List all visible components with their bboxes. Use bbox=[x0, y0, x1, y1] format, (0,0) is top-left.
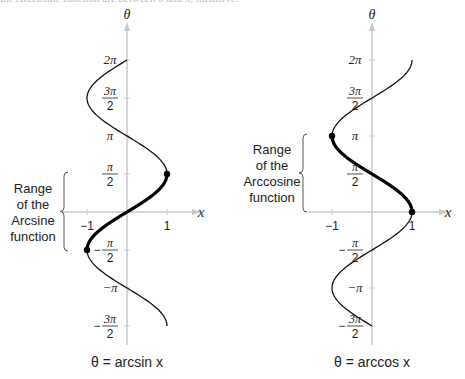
y-tick-label-denominator: 2 bbox=[352, 327, 359, 341]
minus-sign: − bbox=[338, 319, 345, 333]
range-annotation-line: function bbox=[249, 190, 295, 205]
x-tick-label: −1 bbox=[325, 219, 339, 233]
chart-arcsin: xθ−112π3π2ππ2π2−−π3π2−Rangeof theArcsine… bbox=[10, 7, 204, 370]
y-tick-label-numerator: π bbox=[107, 160, 114, 174]
endpoint-dot bbox=[84, 247, 90, 253]
y-tick-label-numerator: 3π bbox=[103, 312, 117, 326]
y-tick-label-denominator: 2 bbox=[352, 175, 359, 189]
x-tick-label: −1 bbox=[80, 219, 94, 233]
y-axis-arrow-icon bbox=[124, 22, 130, 31]
chart-caption: θ = arccos x bbox=[334, 354, 410, 370]
range-annotation-line: of the bbox=[17, 197, 50, 212]
endpoint-dot bbox=[329, 133, 335, 139]
y-tick-label-numerator: π bbox=[352, 236, 359, 250]
x-tick-label: 1 bbox=[164, 219, 171, 233]
range-annotation-line: of the bbox=[256, 158, 289, 173]
range-annotation-line: Range bbox=[253, 142, 291, 157]
range-annotation-line: Range bbox=[14, 181, 52, 196]
y-tick-label: π bbox=[352, 128, 359, 143]
y-tick-label: 2π bbox=[103, 52, 117, 67]
range-annotation-line: Arccosine bbox=[243, 174, 300, 189]
x-axis-label: x bbox=[444, 204, 452, 220]
y-tick-label-denominator: 2 bbox=[107, 251, 114, 265]
y-axis-arrow-icon bbox=[369, 22, 375, 31]
range-annotation-line: Arcsine bbox=[11, 213, 54, 228]
y-tick-label: −π bbox=[347, 280, 363, 295]
y-tick-label-numerator: 3π bbox=[348, 84, 362, 98]
y-tick-label-numerator: π bbox=[107, 236, 114, 250]
chart-caption: θ = arcsin x bbox=[91, 354, 163, 370]
minus-sign: − bbox=[338, 243, 345, 257]
y-tick-label-denominator: 2 bbox=[107, 99, 114, 113]
range-brace bbox=[299, 134, 307, 212]
minus-sign: − bbox=[93, 319, 100, 333]
y-tick-label-denominator: 2 bbox=[107, 175, 114, 189]
minus-sign: − bbox=[93, 243, 100, 257]
y-axis-label: θ bbox=[369, 7, 376, 22]
y-tick-label-numerator: 3π bbox=[103, 84, 117, 98]
endpoint-dot bbox=[164, 171, 170, 177]
chart-arccos: xθ−112π3π2ππ2π2−−π3π2−Rangeof theArccosi… bbox=[243, 7, 451, 370]
figure: xθ−112π3π2ππ2π2−−π3π2−Rangeof theArcsine… bbox=[0, 0, 465, 379]
x-axis-label: x bbox=[197, 204, 205, 220]
y-tick-label: −π bbox=[102, 280, 118, 295]
y-axis-label: θ bbox=[124, 7, 131, 22]
range-annotation-line: function bbox=[10, 229, 56, 244]
y-tick-label-denominator: 2 bbox=[107, 327, 114, 341]
y-tick-label: π bbox=[107, 128, 114, 143]
y-tick-label: 2π bbox=[348, 52, 362, 67]
endpoint-dot bbox=[409, 209, 415, 215]
